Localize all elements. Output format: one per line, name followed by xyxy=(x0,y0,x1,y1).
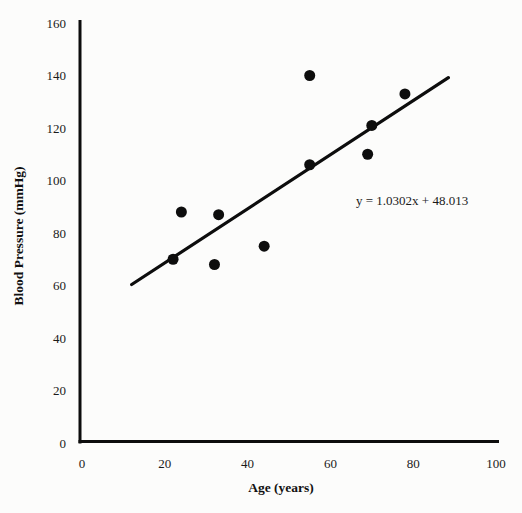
data-point xyxy=(176,207,187,218)
data-point xyxy=(304,159,315,170)
y-tick-label: 0 xyxy=(60,436,67,451)
y-axis-title: Blood Pressure (mmHg) xyxy=(11,167,26,306)
data-point xyxy=(213,209,224,220)
x-tick-label: 0 xyxy=(79,456,86,471)
x-tick-label: 40 xyxy=(241,456,254,471)
trendline xyxy=(132,78,449,285)
data-point xyxy=(366,120,377,131)
data-point xyxy=(362,149,373,160)
y-tick-label: 80 xyxy=(53,226,66,241)
data-point xyxy=(168,254,179,265)
scatter-chart: 020406080100120140160020406080100 Blood … xyxy=(0,0,522,513)
y-tick-label: 60 xyxy=(53,278,66,293)
data-point xyxy=(209,259,220,270)
y-tick-label: 120 xyxy=(47,121,67,136)
plot-area: 020406080100120140160020406080100 xyxy=(47,16,506,472)
y-tick-label: 140 xyxy=(47,68,67,83)
y-tick-label: 100 xyxy=(47,173,67,188)
data-point xyxy=(304,70,315,81)
x-tick-label: 60 xyxy=(324,456,337,471)
x-tick-label: 80 xyxy=(407,456,420,471)
x-axis-title: Age (years) xyxy=(248,480,314,495)
y-tick-label: 160 xyxy=(47,16,67,31)
x-tick-label: 20 xyxy=(158,456,171,471)
data-point xyxy=(399,88,410,99)
y-tick-label: 40 xyxy=(53,331,66,346)
y-tick-label: 20 xyxy=(53,383,66,398)
data-point xyxy=(259,241,270,252)
x-tick-label: 100 xyxy=(486,456,506,471)
chart-canvas: 020406080100120140160020406080100 Blood … xyxy=(0,0,522,513)
trendline-equation-label: y = 1.0302x + 48.013 xyxy=(356,193,468,208)
